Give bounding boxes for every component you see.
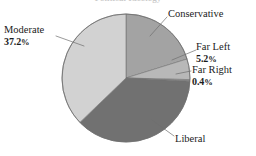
pie-label-far-right-percent: 0.4% xyxy=(192,76,232,89)
pie-slices xyxy=(62,14,190,142)
pie-chart-figure: Political Ideology Conservative Far Left… xyxy=(0,0,256,156)
pie-label-liberal: Liberal xyxy=(175,133,205,145)
pie-label-moderate-name: Moderate xyxy=(4,24,44,35)
pie-label-conservative-name: Conservative xyxy=(168,8,223,19)
pie-label-far-right-name: Far Right xyxy=(192,64,232,75)
pie-label-far-right: Far Right 0.4% xyxy=(192,64,232,88)
pie-label-moderate: Moderate 37.2% xyxy=(4,24,44,48)
pie-label-liberal-name: Liberal xyxy=(175,133,205,144)
pie-label-moderate-percent: 37.2% xyxy=(4,36,44,49)
pie-label-far-left-name: Far Left xyxy=(196,41,230,52)
pie-label-far-left: Far Left 5.2% xyxy=(196,41,230,65)
pie-label-conservative: Conservative xyxy=(168,8,223,20)
